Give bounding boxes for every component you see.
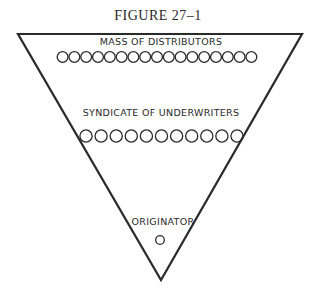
participant-circle	[104, 52, 115, 63]
participant-circle	[187, 52, 198, 63]
participant-circle	[201, 130, 213, 142]
participant-circle	[110, 130, 122, 142]
participant-circle	[69, 52, 80, 63]
participant-circle	[155, 130, 167, 142]
triangle-outline	[18, 34, 302, 280]
participant-circle	[186, 130, 198, 142]
participant-circle	[216, 130, 228, 142]
participant-circle	[125, 130, 137, 142]
participant-circle	[116, 52, 127, 63]
tier-label-distributors: MASS OF DISTRIBUTORS	[0, 36, 316, 47]
participant-circle	[171, 130, 183, 142]
participant-circle	[140, 130, 152, 142]
participant-circle	[81, 52, 92, 63]
participant-circle	[152, 52, 163, 63]
participant-circle	[246, 52, 257, 63]
participant-circle	[163, 52, 174, 63]
participant-circle	[57, 52, 68, 63]
participant-circle	[80, 130, 92, 142]
participant-circle	[93, 52, 104, 63]
participant-circle	[175, 52, 186, 63]
originator-circle	[156, 236, 165, 245]
underwriters-circles-row	[80, 130, 243, 142]
participant-circle	[222, 52, 233, 63]
participant-circle	[234, 52, 245, 63]
participant-circle	[95, 130, 107, 142]
participant-circle	[211, 52, 222, 63]
participant-circle	[128, 52, 139, 63]
tier-label-underwriters: SYNDICATE OF UNDERWRITERS	[0, 107, 316, 118]
participant-circle	[140, 52, 151, 63]
participant-circle	[156, 236, 165, 245]
distributors-circles-row	[57, 52, 257, 63]
tier-label-originator: ORIGINATOR	[0, 216, 316, 227]
participant-circle	[199, 52, 210, 63]
participant-circle	[231, 130, 243, 142]
